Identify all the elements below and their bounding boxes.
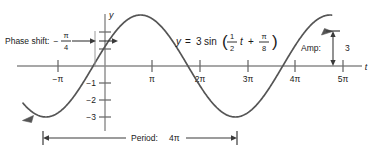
curve-right-arrowhead — [322, 29, 333, 36]
amplitude-value: 3 — [345, 43, 350, 53]
period-arrowhead-right — [231, 135, 237, 140]
figure-container: −π π 2π 3π 4π 5π −1 −2 −3 y t — [0, 0, 377, 157]
x-axis-label: t — [365, 62, 368, 72]
sine-curve-group — [23, 15, 333, 123]
period-annotation: Period: 4π — [43, 131, 237, 145]
equation-sin: sin — [204, 36, 217, 47]
equation-open-paren: ( — [222, 32, 228, 51]
x-tick-label-3pi: 3π — [243, 74, 254, 84]
phase-shift-numerator: π — [63, 31, 68, 40]
phase-shift-denominator: 4 — [64, 43, 68, 52]
equation-plus: + — [248, 36, 254, 47]
x-tick-label-4pi: 4π — [290, 74, 301, 84]
x-tick-label-5pi: 5π — [338, 74, 349, 84]
equation-equals: = — [185, 36, 191, 47]
equation-frac2-numerator: π — [261, 32, 266, 41]
curve-left-arrowhead — [23, 116, 34, 123]
phase-shift-minus-sign: − — [54, 36, 59, 46]
y-tick-label--3: −3 — [86, 112, 96, 122]
equation-y: y — [175, 36, 182, 47]
y-tick-label--1: −1 — [86, 78, 96, 88]
x-tick-label-pi: π — [149, 74, 155, 84]
trig-graph-figure: −π π 2π 3π 4π 5π −1 −2 −3 y t — [0, 0, 377, 157]
equation-coefficient: 3 — [196, 36, 202, 47]
axes-group — [17, 14, 362, 131]
equation-t: t — [240, 36, 244, 47]
y-axis-label: y — [108, 10, 114, 20]
equation-frac1-numerator: 1 — [230, 32, 234, 41]
period-label: Period: — [131, 133, 158, 143]
x-tick-label--pi: −π — [53, 74, 64, 84]
amplitude-label: Amp: — [301, 43, 321, 53]
equation-frac1-denominator: 2 — [230, 44, 234, 53]
equation-annotation: y = 3 sin ( 1 2 t + π 8 ) — [175, 32, 278, 53]
phase-shift-inner-arrowhead — [112, 38, 118, 43]
y-tick-label--2: −2 — [86, 95, 96, 105]
period-arrowhead-left — [43, 135, 49, 140]
equation-frac2-denominator: 8 — [262, 44, 266, 53]
phase-shift-label: Phase shift: — [5, 36, 49, 46]
equation-close-paren: ) — [272, 32, 278, 51]
amplitude-arrowhead-down — [330, 60, 335, 66]
period-value: 4π — [169, 133, 180, 143]
